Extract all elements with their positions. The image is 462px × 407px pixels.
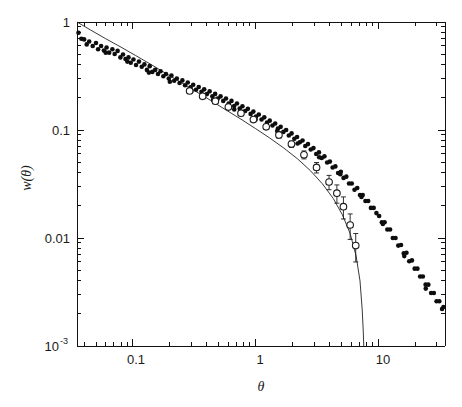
- data-point-filled: [115, 49, 120, 54]
- data-point-filled: [432, 291, 437, 296]
- data-point-open: [250, 116, 257, 123]
- data-point-filled: [371, 206, 376, 211]
- data-point-filled: [423, 286, 428, 291]
- data-point-filled: [355, 186, 360, 191]
- data-point-open: [347, 222, 354, 229]
- data-point-open: [199, 93, 206, 100]
- data-point-filled: [381, 222, 386, 227]
- data-point-filled: [185, 80, 190, 85]
- y-ticklabel-2: 0.01: [45, 231, 70, 246]
- y-ticklabel-1: 0.1: [52, 123, 70, 138]
- data-point-filled: [147, 64, 152, 69]
- figure-panel: 0.1 1 10 1 0.1 0.01 10 -3 θ w(θ): [0, 0, 462, 407]
- data-point-filled: [262, 115, 267, 120]
- data-point-filled: [94, 41, 99, 46]
- data-point-filled: [229, 99, 234, 104]
- data-point-filled: [224, 96, 229, 101]
- data-point-filled: [289, 131, 294, 136]
- data-point-filled: [168, 79, 173, 84]
- data-point-filled: [359, 195, 364, 200]
- data-point-filled: [322, 154, 327, 159]
- data-point-filled: [300, 138, 305, 143]
- data-point-open: [313, 164, 320, 171]
- angular-correlation-plot: 0.1 1 10 1 0.1 0.01 10 -3 θ w(θ): [0, 0, 462, 407]
- data-point-open: [212, 98, 219, 105]
- data-point-filled: [232, 107, 237, 112]
- x-ticklabel-0: 0.1: [127, 352, 145, 367]
- data-point-open: [340, 203, 347, 210]
- data-point-filled: [426, 282, 431, 287]
- data-point-open: [352, 242, 359, 249]
- data-point-filled: [153, 68, 158, 73]
- data-point-filled: [240, 104, 245, 109]
- data-point-filled: [131, 57, 136, 62]
- data-point-filled: [147, 70, 152, 75]
- data-point-filled: [421, 274, 426, 279]
- data-point-filled: [284, 128, 289, 133]
- data-point-filled: [415, 266, 420, 271]
- data-point-filled: [169, 73, 174, 78]
- data-point-filled: [175, 76, 180, 81]
- data-point-filled: [164, 72, 169, 77]
- data-point-filled: [311, 146, 316, 151]
- data-point-open: [326, 179, 333, 186]
- data-point-open: [225, 104, 232, 111]
- data-point-filled: [142, 62, 147, 67]
- data-point-filled: [273, 121, 278, 126]
- data-point-filled: [76, 30, 81, 35]
- data-point-filled: [125, 59, 130, 64]
- data-point-filled: [399, 243, 404, 248]
- data-point-filled: [251, 109, 256, 114]
- data-point-filled: [437, 299, 442, 304]
- data-point-filled: [278, 125, 283, 130]
- data-point-filled: [137, 59, 142, 64]
- y-ticklabel-3: 10: [45, 339, 59, 354]
- data-point-filled: [333, 164, 338, 169]
- data-point-open: [186, 88, 193, 95]
- data-point-filled: [295, 141, 300, 146]
- data-point-filled: [402, 254, 407, 259]
- data-point-open: [301, 151, 308, 158]
- data-point-filled: [104, 45, 109, 50]
- data-point-filled: [317, 150, 322, 155]
- data-point-filled: [388, 227, 393, 232]
- data-point-filled: [366, 199, 371, 204]
- data-point-filled: [180, 78, 185, 83]
- data-point-filled: [306, 142, 311, 147]
- data-point-filled: [235, 101, 240, 106]
- x-axis-title: θ: [258, 379, 265, 394]
- data-point-filled: [202, 87, 207, 92]
- data-point-filled: [441, 305, 446, 310]
- data-point-open: [334, 190, 341, 197]
- data-point-filled: [338, 172, 343, 177]
- data-point-open: [276, 132, 283, 139]
- data-point-filled: [196, 85, 201, 90]
- data-point-filled: [317, 155, 322, 160]
- data-point-open: [238, 110, 245, 117]
- data-point-filled: [110, 47, 115, 52]
- y-axis-title: w(θ): [19, 165, 35, 191]
- data-point-filled: [349, 181, 354, 186]
- data-point-filled: [267, 118, 272, 123]
- y-ticklabel-0: 1: [63, 15, 70, 30]
- x-ticklabel-1: 1: [256, 352, 263, 367]
- data-point-filled: [213, 92, 218, 97]
- data-point-filled: [246, 107, 251, 112]
- data-point-filled: [103, 50, 108, 55]
- data-point-filled: [344, 174, 349, 179]
- data-point-filled: [126, 55, 131, 60]
- data-point-filled: [121, 52, 126, 57]
- data-point-filled: [207, 89, 212, 94]
- x-ticklabel-2: 10: [376, 352, 390, 367]
- data-point-filled: [158, 69, 163, 74]
- data-point-filled: [191, 83, 196, 88]
- data-point-filled: [218, 94, 223, 99]
- data-point-open: [288, 141, 295, 148]
- data-point-filled: [328, 159, 333, 164]
- data-point-filled: [295, 135, 300, 140]
- data-point-filled: [257, 112, 262, 117]
- data-point-filled: [410, 258, 415, 263]
- data-point-filled: [99, 44, 104, 49]
- y-ticklabel-3-exponent: -3: [60, 336, 68, 346]
- data-point-open: [263, 124, 270, 131]
